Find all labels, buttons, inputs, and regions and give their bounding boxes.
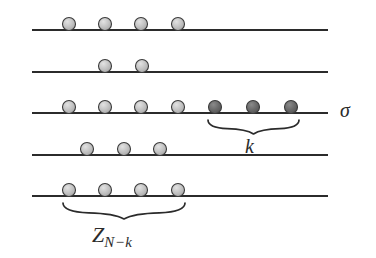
partition-function-label: ZN−k xyxy=(92,224,132,250)
bead-light xyxy=(172,184,185,197)
bead-dark xyxy=(285,101,298,114)
bead-dark xyxy=(209,101,222,114)
bead-light xyxy=(135,18,148,31)
bead-light xyxy=(81,143,94,156)
z-subscript: N−k xyxy=(104,234,132,250)
bead-light xyxy=(99,60,112,73)
bead-light xyxy=(172,101,185,114)
bead-light xyxy=(118,143,131,156)
bead-dark xyxy=(247,101,260,114)
figure-canvas: σ k ZN−k xyxy=(0,0,376,258)
k-label: k xyxy=(245,136,254,156)
bead-light xyxy=(99,101,112,114)
diagram-svg xyxy=(0,0,376,258)
braces-group xyxy=(63,120,299,219)
brace-k xyxy=(208,120,299,134)
bead-light xyxy=(135,101,148,114)
bead-light xyxy=(63,18,76,31)
bead-light xyxy=(154,143,167,156)
bead-light xyxy=(63,101,76,114)
bead-light xyxy=(135,184,148,197)
bead-light xyxy=(99,184,112,197)
bead-light xyxy=(136,60,149,73)
brace-z xyxy=(63,203,185,219)
sigma-label: σ xyxy=(340,100,350,120)
bead-light xyxy=(99,18,112,31)
bead-light xyxy=(172,18,185,31)
bead-light xyxy=(63,184,76,197)
beads-group xyxy=(63,18,298,197)
z-base: Z xyxy=(92,222,104,247)
